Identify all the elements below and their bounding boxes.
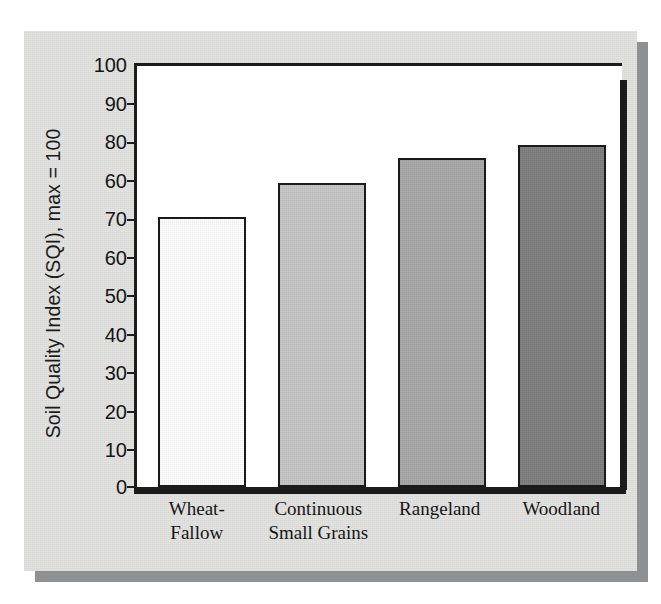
x-label-continuous-small-grains: Continuous Small Grains (258, 497, 380, 545)
x-axis-baseline (134, 487, 626, 494)
y-axis-tick-labels: 100 90 80 60 70 60 50 40 30 20 10 0 (52, 0, 127, 604)
x-label-line1: Woodland (522, 498, 600, 519)
y-tick-label: 70 (105, 210, 127, 228)
x-label-line1: Rangeland (399, 498, 480, 519)
x-label-line2: Small Grains (258, 521, 380, 545)
plot-right-shadow (620, 80, 627, 490)
x-label-wheat-fallow: Wheat- Fallow (136, 497, 258, 545)
bar-wheat-fallow[interactable] (158, 217, 246, 487)
panel-shadow-right (637, 42, 648, 582)
y-tick-label: 50 (105, 287, 127, 305)
y-tick-label: 100 (94, 56, 127, 74)
x-label-rangeland: Rangeland (379, 497, 501, 545)
y-tick-label: 40 (105, 326, 127, 344)
y-tick-label: 60 (105, 249, 127, 267)
x-axis-category-labels: Wheat- Fallow Continuous Small Grains Ra… (136, 497, 622, 545)
x-label-woodland: Woodland (501, 497, 623, 545)
bar-rangeland[interactable] (398, 158, 486, 487)
y-tick-label: 90 (105, 95, 127, 113)
x-label-line2: Fallow (136, 521, 258, 545)
bar-series (136, 65, 622, 487)
y-tick-label: 20 (105, 403, 127, 421)
y-tick-label: 60 (105, 172, 127, 190)
y-tick-label: 30 (105, 364, 127, 382)
y-tick-label: 0 (116, 478, 127, 496)
bar-continuous-small-grains[interactable] (278, 183, 366, 487)
y-tick-label: 10 (105, 441, 127, 459)
x-label-line1: Continuous (274, 498, 362, 519)
chart-figure: Soil Quality Index (SQI), max = 100 100 … (0, 0, 661, 604)
bar-woodland[interactable] (518, 145, 606, 487)
x-label-line1: Wheat- (169, 498, 225, 519)
y-tick-label: 80 (105, 133, 127, 151)
